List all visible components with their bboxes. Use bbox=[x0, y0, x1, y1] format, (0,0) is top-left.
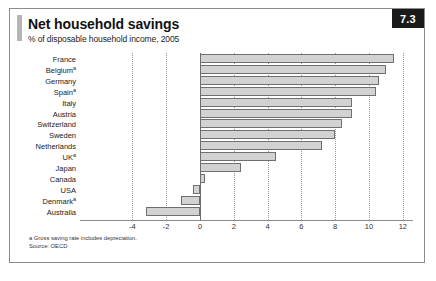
gridline--4 bbox=[132, 53, 133, 220]
bar-netherlands bbox=[200, 141, 322, 150]
bar-germany bbox=[200, 76, 379, 85]
category-label-italy: Italy bbox=[10, 99, 76, 108]
x-tick-label: 10 bbox=[365, 222, 373, 231]
x-tick-label: 12 bbox=[399, 222, 407, 231]
figure-footnote: a Gross saving rate includes depreciatio… bbox=[29, 235, 137, 241]
bar-sweden bbox=[200, 130, 335, 139]
category-label-switzerland: Switzerland bbox=[10, 120, 76, 129]
figure-frame: 7.3 Net household savings % of disposabl… bbox=[9, 8, 425, 263]
bar-switzerland bbox=[200, 119, 342, 128]
x-tick-label: 2 bbox=[232, 222, 236, 231]
bar-denmark bbox=[181, 196, 200, 205]
figure-source: Source: OECD bbox=[29, 243, 67, 249]
bar-uk bbox=[200, 152, 276, 161]
bar-france bbox=[200, 54, 394, 63]
x-tick-label: 8 bbox=[333, 222, 337, 231]
x-tick-label: 0 bbox=[198, 222, 202, 231]
x-axis-line bbox=[80, 220, 413, 221]
bar-italy bbox=[200, 98, 352, 107]
category-label-denmark: Denmarka bbox=[10, 197, 76, 206]
bar-usa bbox=[193, 185, 200, 194]
bar-canada bbox=[200, 174, 205, 183]
category-label-japan: Japan bbox=[10, 164, 76, 173]
bar-australia bbox=[146, 207, 200, 216]
category-label-france: France bbox=[10, 55, 76, 64]
gridline--2 bbox=[166, 53, 167, 220]
category-label-belgium: Belgiuma bbox=[10, 66, 76, 75]
category-label-sweden: Sweden bbox=[10, 131, 76, 140]
category-label-germany: Germany bbox=[10, 77, 76, 86]
category-label-austria: Austria bbox=[10, 110, 76, 119]
bar-belgium bbox=[200, 65, 386, 74]
figure-container: 7.3 Net household savings % of disposabl… bbox=[0, 0, 436, 281]
bar-austria bbox=[200, 109, 352, 118]
bar-japan bbox=[200, 163, 241, 172]
category-label-spain: Spaina bbox=[10, 88, 76, 97]
category-label-uk: UKa bbox=[10, 153, 76, 162]
category-label-usa: USA bbox=[10, 186, 76, 195]
x-tick-label: 6 bbox=[299, 222, 303, 231]
category-label-canada: Canada bbox=[10, 175, 76, 184]
category-label-netherlands: Netherlands bbox=[10, 142, 76, 151]
x-tick-label: 4 bbox=[266, 222, 270, 231]
x-tick-label: -2 bbox=[163, 222, 170, 231]
chart-plot-area: -4-2024681012FranceBelgiumaGermanySpaina… bbox=[10, 9, 426, 264]
category-label-australia: Australia bbox=[10, 208, 76, 217]
bar-spain bbox=[200, 87, 376, 96]
x-tick-label: -4 bbox=[129, 222, 136, 231]
gridline-12 bbox=[403, 53, 404, 220]
